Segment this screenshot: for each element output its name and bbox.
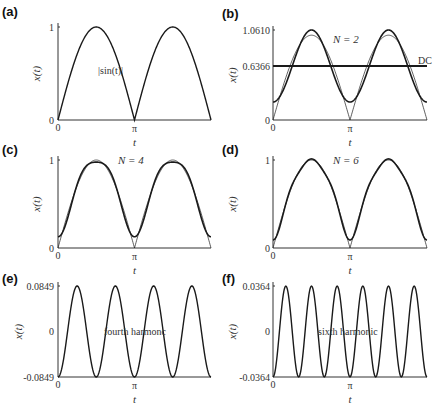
panel-label: (b) [222, 6, 239, 21]
series-line [273, 160, 427, 248]
panel-label: (d) [222, 142, 239, 157]
panel-label: (f) [222, 271, 235, 286]
panel-c: (c)010πtx(t)N = 4 [2, 142, 211, 276]
x-tick-label: 0 [56, 379, 61, 390]
series-line [58, 27, 211, 120]
y-axis-label: x(t) [226, 196, 239, 213]
y-tick-label: 0 [265, 326, 270, 337]
dc-label: DC [418, 55, 432, 66]
x-axis-label: t [348, 136, 352, 148]
y-tick-label: 0.0849 [27, 281, 55, 292]
annotation: sixth harmonic [318, 326, 378, 337]
y-tick-label: 1 [265, 155, 270, 166]
x-tick-label: 0 [56, 250, 61, 261]
y-tick-label: 0 [49, 243, 54, 254]
series-line [273, 159, 427, 240]
panel-e: (e)-0.084900.08490πtx(t)fourth harmonc [2, 271, 211, 405]
annotation: N = 2 [332, 33, 359, 45]
x-tick-label: π [132, 251, 137, 262]
x-axis-label: t [348, 393, 352, 405]
panel-label: (e) [2, 271, 18, 286]
y-axis-label: x(t) [12, 324, 25, 341]
x-tick-label: 0 [271, 122, 276, 133]
annotation: |sin(t)| [98, 65, 123, 77]
series-line [273, 35, 427, 120]
x-axis-label: t [133, 264, 137, 276]
x-tick-label: 0 [271, 250, 276, 261]
y-tick-label: -0.0364 [239, 372, 270, 383]
x-tick-label: π [132, 123, 137, 134]
y-tick-label: 0 [49, 115, 54, 126]
y-tick-label: -0.0849 [23, 372, 54, 383]
panel-a: (a)010πtx(t)|sin(t)| [2, 4, 211, 148]
x-tick-label: π [132, 380, 137, 391]
y-tick-label: 0.6366 [243, 61, 271, 72]
x-tick-label: π [347, 251, 352, 262]
y-tick-label: 0 [49, 326, 54, 337]
y-axis-label: x(t) [30, 66, 43, 83]
y-axis-label: x(t) [226, 324, 239, 341]
series-line [58, 162, 211, 237]
y-tick-label: 0 [265, 243, 270, 254]
y-axis-label: x(t) [30, 196, 43, 213]
x-tick-label: 0 [56, 122, 61, 133]
y-tick-label: 1 [49, 22, 54, 33]
annotation: fourth harmonc [104, 326, 166, 337]
panel-label: (a) [2, 4, 18, 19]
y-tick-label: 0 [265, 115, 270, 126]
y-axis-label: x(t) [226, 67, 239, 84]
panel-b: (b)00.63661.06100πtx(t)N = 2DC [222, 6, 432, 148]
x-axis-label: t [348, 264, 352, 276]
x-axis-label: t [133, 136, 137, 148]
x-tick-label: π [347, 380, 352, 391]
x-tick-label: π [347, 123, 352, 134]
annotation: N = 6 [332, 154, 359, 166]
panel-label: (c) [2, 142, 18, 157]
panel-d: (d)010πtx(t)N = 6 [222, 142, 427, 276]
y-tick-label: 0.0364 [243, 281, 271, 292]
y-tick-label: 1 [49, 155, 54, 166]
x-axis-label: t [133, 393, 137, 405]
y-tick-label: 1.0610 [243, 25, 271, 36]
figure: (a)010πtx(t)|sin(t)|(b)00.63661.06100πtx… [0, 0, 440, 418]
annotation: N = 4 [117, 154, 144, 166]
panel-f: (f)-0.036400.03640πtx(t)sixth harmonic [222, 271, 427, 405]
x-tick-label: 0 [271, 379, 276, 390]
